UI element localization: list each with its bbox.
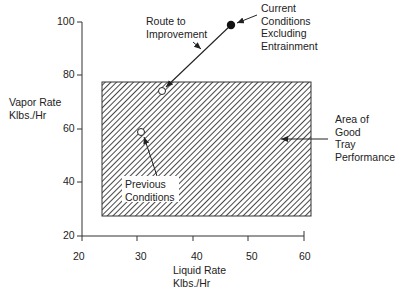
- y-axis: [77, 22, 82, 236]
- previous-conditions-label: Previous Conditions: [125, 178, 175, 203]
- area-of-good-tray-performance-label: Area of Good Tray Performance: [335, 113, 395, 163]
- current-pointer-arrow: [237, 15, 257, 23]
- current-label-line4: Entrainment: [261, 40, 318, 53]
- area-label-line3: Tray: [335, 138, 395, 151]
- x-tick-40: 40: [191, 250, 203, 262]
- y-tick-80: 80: [63, 68, 75, 80]
- route-to-improvement-label: Route to Improvement: [146, 15, 207, 40]
- x-axis: [82, 231, 304, 241]
- x-tick-20: 20: [73, 250, 85, 262]
- previous-label-line2: Conditions: [125, 191, 175, 204]
- x-axis-label-line2: Klbs./Hr: [173, 277, 226, 290]
- y-tick-60: 60: [63, 122, 75, 134]
- current-conditions-label: Current Conditions Excluding Entrainment: [261, 2, 318, 52]
- intermediate-point: [159, 88, 166, 95]
- area-label-line4: Performance: [335, 151, 395, 164]
- y-axis-label-line2: Klbs./Hr: [9, 109, 61, 122]
- y-tick-40: 40: [63, 175, 75, 187]
- x-tick-30: 30: [135, 250, 147, 262]
- x-tick-60: 60: [299, 250, 311, 262]
- previous-label-line1: Previous: [125, 178, 175, 191]
- y-tick-100: 100: [57, 15, 75, 27]
- area-label-line1: Area of: [335, 113, 395, 126]
- current-label-line2: Conditions: [261, 15, 318, 28]
- x-axis-label-line1: Liquid Rate: [173, 264, 226, 277]
- previous-conditions-point: [138, 129, 145, 136]
- y-tick-20: 20: [63, 229, 75, 241]
- route-label-line2: Improvement: [146, 28, 207, 41]
- x-tick-50: 50: [246, 250, 258, 262]
- route-pointer-arrow: [193, 42, 201, 49]
- y-axis-label-line1: Vapor Rate: [9, 96, 61, 109]
- area-label-line2: Good: [335, 126, 395, 139]
- x-axis-label: Liquid Rate Klbs./Hr: [173, 264, 226, 289]
- current-label-line1: Current: [261, 2, 318, 15]
- route-label-line1: Route to: [146, 15, 207, 28]
- y-axis-label: Vapor Rate Klbs./Hr: [9, 96, 61, 121]
- current-label-line3: Excluding: [261, 27, 318, 40]
- current-conditions-point: [227, 21, 235, 29]
